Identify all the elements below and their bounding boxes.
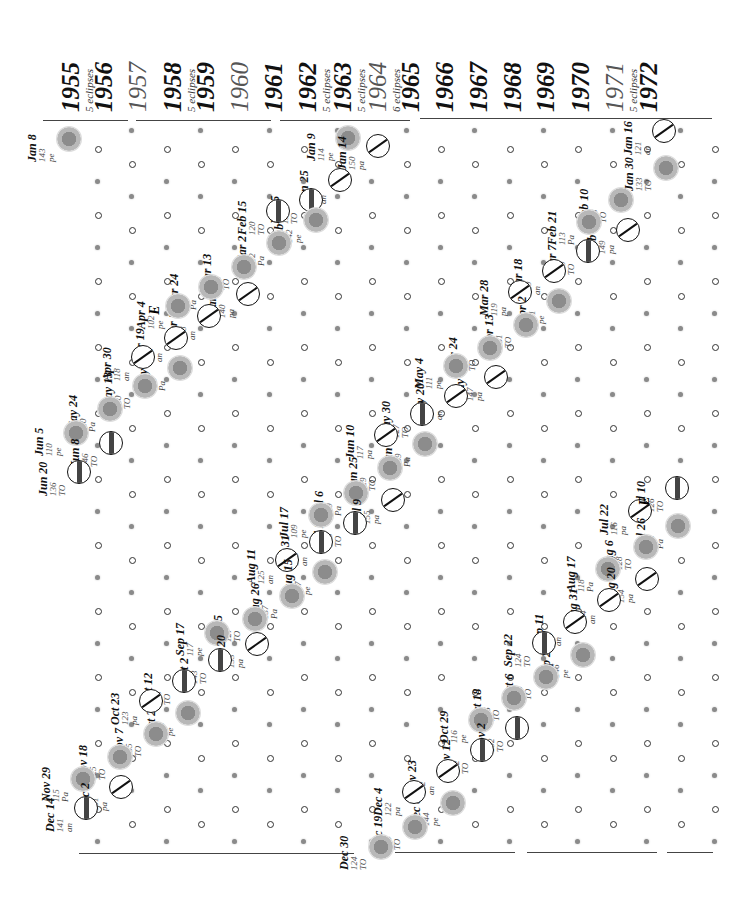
lunation-dot	[541, 128, 546, 133]
solar-eclipse-icon	[368, 834, 394, 860]
lunation-dot	[610, 821, 617, 828]
lunation-dot	[335, 359, 342, 366]
lunation-dot	[232, 476, 239, 483]
lunation-dot	[678, 821, 685, 828]
solar-eclipse-icon	[412, 431, 438, 457]
solar-eclipse-icon	[143, 721, 169, 747]
lunation-dot	[712, 674, 719, 681]
lunar-eclipse-icon	[309, 530, 333, 554]
lunation-dot	[95, 146, 102, 153]
lunation-dot	[198, 491, 205, 498]
eclipse-label: Feb 21113Pa	[546, 211, 576, 245]
lunation-dot	[644, 806, 651, 813]
lunation-dot	[129, 458, 134, 463]
eclipse-label: Sep 22124TO	[502, 634, 532, 667]
lunation-dot	[541, 491, 548, 498]
lunation-dot	[95, 245, 100, 250]
lunation-dot	[267, 623, 274, 630]
eclipse-label: Jan 30133TO	[623, 157, 653, 191]
solar-eclipse-icon	[570, 642, 596, 668]
year-label: 1963	[329, 62, 356, 112]
year-label: 1964	[364, 62, 391, 112]
lunation-dot	[369, 707, 374, 712]
year-label: 1956	[90, 62, 117, 112]
lunation-dot	[575, 707, 580, 712]
year-label: 1968	[499, 62, 526, 112]
year-header-1961: 1961	[261, 62, 286, 112]
lunation-dot	[438, 179, 443, 184]
year-header-1969: 1969	[533, 62, 558, 112]
solar-eclipse-icon	[107, 744, 133, 770]
lunar-eclipse-icon	[597, 588, 621, 612]
lunation-dot	[301, 410, 308, 417]
lunar-eclipse-icon	[542, 259, 566, 283]
lunation-dot	[232, 608, 239, 615]
lunation-dot	[369, 278, 376, 285]
lunation-dot	[712, 773, 717, 778]
eclipse-type: pa	[393, 788, 402, 816]
lunation-dot	[198, 524, 203, 529]
lunation-dot	[712, 410, 719, 417]
lunation-dot	[335, 194, 340, 199]
lunation-dot	[301, 740, 308, 747]
lunation-dot	[404, 326, 409, 331]
lunation-dot	[610, 359, 617, 366]
lunation-dot	[267, 260, 272, 265]
lunation-dot	[644, 740, 651, 747]
lunation-dot	[335, 326, 340, 331]
year-header-1957: 1957	[125, 62, 150, 112]
eclipse-type: TO	[624, 540, 633, 570]
eclipse-type: pe	[299, 507, 308, 538]
lunation-dot	[712, 344, 719, 351]
lunation-dot	[404, 557, 411, 564]
lunation-dot	[95, 575, 100, 580]
lunation-dot	[678, 590, 683, 595]
lunation-dot	[644, 773, 649, 778]
lunation-dot	[232, 773, 237, 778]
lunation-dot	[472, 194, 477, 199]
lunation-dot	[472, 458, 477, 463]
lunar-eclipse-icon	[436, 759, 460, 783]
lunation-dot	[301, 377, 306, 382]
lunation-dot	[164, 245, 169, 250]
lunar-eclipse-icon	[652, 119, 676, 143]
lunar-eclipse-icon	[366, 134, 390, 158]
eclipse-type: pa	[365, 425, 374, 459]
lunation-dot	[541, 689, 548, 696]
lunation-dot	[472, 326, 477, 331]
lunation-dot	[472, 227, 479, 234]
lunation-dot	[129, 623, 136, 630]
lunation-dot	[95, 542, 102, 549]
eclipse-type: an	[588, 588, 597, 624]
lunation-dot	[95, 608, 102, 615]
lunar-eclipse-icon	[172, 669, 196, 693]
lunation-dot	[507, 443, 512, 448]
lunation-dot	[267, 491, 274, 498]
lunation-dot	[678, 260, 683, 265]
lunation-dot	[232, 179, 237, 184]
year-header-1963: 19635 eclipses	[330, 62, 367, 112]
lunation-dot	[541, 524, 546, 529]
eclipse-type: pa	[607, 220, 616, 254]
lunar-eclipse-icon	[74, 796, 98, 820]
lunation-dot	[438, 443, 443, 448]
lunation-dot	[541, 557, 548, 564]
lunation-dot	[610, 755, 617, 762]
eclipse-type: Pa	[257, 236, 266, 266]
lunation-dot	[301, 608, 308, 615]
lunation-dot	[507, 476, 514, 483]
lunation-dot	[129, 590, 134, 595]
lunation-dot	[129, 491, 136, 498]
bottom-rule-far	[667, 852, 713, 853]
lunation-dot	[712, 707, 717, 712]
lunation-dot	[438, 509, 443, 514]
eclipse-label: Jan 14150pa	[336, 136, 366, 170]
lunation-dot	[404, 227, 411, 234]
eclipse-type: pa	[100, 783, 109, 811]
lunation-dot	[472, 128, 477, 133]
solar-eclipse-icon	[97, 396, 123, 422]
lunation-dot	[267, 128, 272, 133]
lunation-dot	[198, 425, 205, 432]
lunation-dot	[164, 212, 171, 219]
year-header-1967: 1967	[466, 62, 491, 112]
